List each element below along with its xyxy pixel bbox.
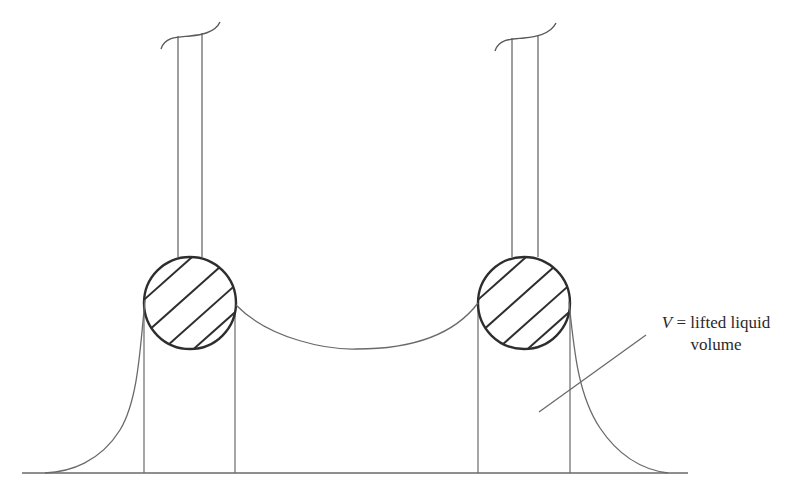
volume-annotation: V = lifted liquid volume bbox=[646, 312, 786, 356]
break-line-icon bbox=[495, 23, 556, 51]
liquid-bridge-diagram bbox=[0, 0, 799, 500]
break-line-icon bbox=[161, 22, 220, 49]
left-cylinder-cross-section bbox=[110, 250, 260, 370]
variable-v: V bbox=[662, 313, 672, 332]
left-rod bbox=[161, 22, 220, 257]
annotation-line-2: volume bbox=[646, 334, 786, 356]
right-rod bbox=[495, 23, 556, 257]
annotation-line-1: V = lifted liquid bbox=[646, 312, 786, 334]
annotation-text: = lifted liquid bbox=[672, 313, 770, 332]
meniscus-between-cylinders bbox=[236, 303, 478, 349]
outer-left-meniscus bbox=[45, 300, 145, 473]
right-cylinder-cross-section bbox=[444, 250, 594, 370]
leader-line bbox=[539, 335, 646, 412]
